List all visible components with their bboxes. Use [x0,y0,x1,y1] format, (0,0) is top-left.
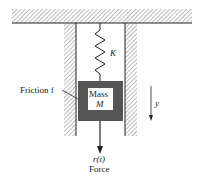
force-symbol: r(t) [93,154,105,164]
mass-label: Mass [89,89,108,99]
left-wall [64,23,76,136]
right-wall [125,23,137,136]
force-label: Force [89,164,110,174]
spring-label: K [110,48,116,58]
direction-label: y [155,98,159,108]
friction-label: Friction f [20,85,54,95]
mass-symbol: M [96,99,104,109]
spring [95,23,105,81]
ceiling [12,9,192,23]
